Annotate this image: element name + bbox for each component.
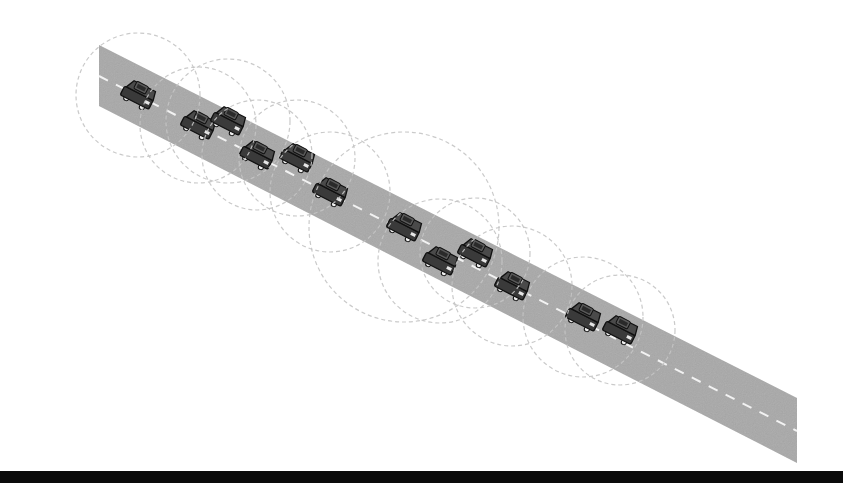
vehicle-network-diagram: [0, 0, 843, 483]
bottom-bar: [0, 471, 843, 483]
